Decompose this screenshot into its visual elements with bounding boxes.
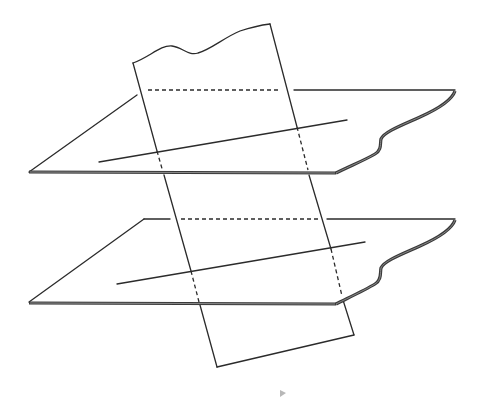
cutting-plane-left-edge-top xyxy=(133,63,157,151)
lower-plane xyxy=(29,219,455,304)
cutting-plane-right-edge-mid xyxy=(309,175,331,249)
lower-plane-left-edge xyxy=(29,219,144,302)
cutting-plane-right-edge-bottom xyxy=(343,300,354,335)
cursor-marker-icon xyxy=(280,390,286,397)
lower-plane-right-edge xyxy=(336,220,455,304)
upper-plane xyxy=(29,90,455,173)
cutting-plane-left-edge-hidden-1 xyxy=(157,151,163,172)
cutting-plane xyxy=(133,24,354,367)
cutting-plane-right-edge-top xyxy=(270,24,297,127)
cutting-plane-left-edge-bottom xyxy=(200,305,217,367)
parallel-planes-diagram xyxy=(0,0,488,409)
cutting-plane-right-edge-hidden-2 xyxy=(331,249,342,296)
upper-plane-left-edge xyxy=(29,95,137,172)
lower-intersection-line xyxy=(117,242,365,284)
cutting-plane-left-edge-hidden-2 xyxy=(191,271,199,302)
cutting-plane-right-edge-hidden-1 xyxy=(297,127,308,170)
upper-plane-right-edge xyxy=(336,91,455,173)
upper-intersection-line xyxy=(99,120,347,162)
cutting-plane-left-edge-mid xyxy=(164,175,191,271)
cutting-plane-bottom-edge xyxy=(217,335,354,367)
cutting-plane-top-edge xyxy=(133,24,270,63)
